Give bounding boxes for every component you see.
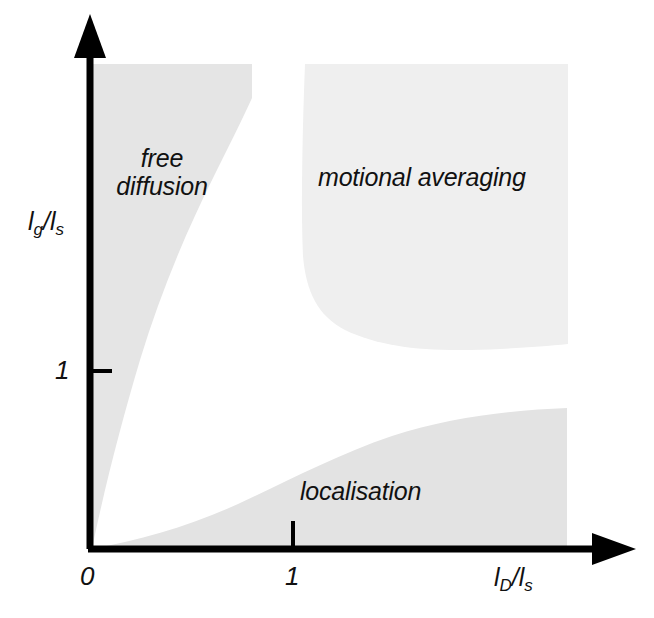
phase-diagram-figure: freediffusion motional averaging localis…	[0, 0, 654, 618]
x-axis-arrowhead	[592, 533, 636, 565]
y-axis-title-sub2: s	[56, 220, 65, 239]
y-axis-title-sub: g	[34, 220, 43, 239]
region-label-motional-averaging: motional averaging	[318, 163, 526, 191]
region-label-free-diffusion-line1: free	[141, 144, 183, 172]
region-free-diffusion	[92, 64, 252, 549]
region-motional-averaging	[302, 64, 568, 350]
region-label-localisation: localisation	[300, 477, 421, 505]
y-axis-title-tail: /l	[43, 207, 56, 235]
x-axis-title: lD/ls	[494, 563, 533, 596]
x-axis-tick-label-1: 1	[285, 561, 299, 592]
phase-diagram-canvas	[0, 0, 654, 618]
y-axis-arrowhead	[74, 14, 106, 58]
x-axis-title-sub: D	[500, 576, 512, 595]
y-axis-title: lg/ls	[28, 207, 64, 240]
x-axis-tick-label-0: 0	[80, 561, 94, 592]
region-label-free-diffusion-line2: diffusion	[116, 172, 207, 200]
y-axis-tick-label-1: 1	[55, 355, 69, 386]
x-axis-title-tail: /l	[512, 563, 525, 591]
region-label-free-diffusion: freediffusion	[96, 144, 228, 200]
x-axis-title-sub2: s	[524, 576, 533, 595]
